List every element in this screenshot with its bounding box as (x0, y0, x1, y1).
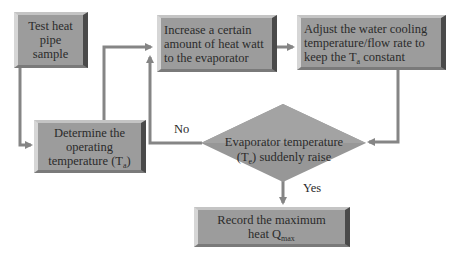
node-determine-temp: Determine the operating temperature (Ta) (34, 120, 146, 173)
decision-line1: Evaporator temperature (213, 135, 355, 150)
node-record-max-line1: Record the maximum (217, 213, 325, 227)
arrow-sample-to-determine (20, 68, 31, 145)
edge-label-yes: Yes (303, 181, 321, 196)
node-increase-heat-line1: Increase a certain (164, 23, 264, 37)
arrow-adjust-to-diamond (369, 70, 398, 142)
node-test-sample-label: Test heat pipe sample (18, 19, 83, 61)
node-increase-heat: Increase a certain amount of heat watt t… (157, 15, 277, 72)
node-increase-heat-line2: amount of heat watt (164, 37, 264, 51)
node-determine-temp-line3: temperature (Ta) (48, 154, 130, 168)
node-test-sample: Test heat pipe sample (14, 12, 88, 68)
node-record-max: Record the maximum heat Qmax (194, 207, 350, 247)
decision-line2: (Te) suddenly raise (213, 150, 355, 165)
node-adjust-cooling-line1: Adjust the water cooling (304, 22, 427, 36)
node-adjust-cooling: Adjust the water cooling temperature/flo… (297, 15, 446, 70)
edge-label-no: No (174, 122, 189, 137)
node-increase-heat-line3: to the evaporator (164, 51, 264, 65)
node-adjust-cooling-line3: keep the Ta constant (304, 50, 427, 64)
node-record-max-line2: heat Qmax (217, 227, 325, 241)
node-determine-temp-line2: operating (48, 140, 130, 154)
decision-diamond-text: Evaporator temperature (Te) suddenly rai… (213, 135, 355, 165)
node-determine-temp-line1: Determine the (48, 126, 130, 140)
arrow-determine-to-increase (104, 47, 151, 120)
node-adjust-cooling-line2: temperature/flow rate to (304, 36, 427, 50)
